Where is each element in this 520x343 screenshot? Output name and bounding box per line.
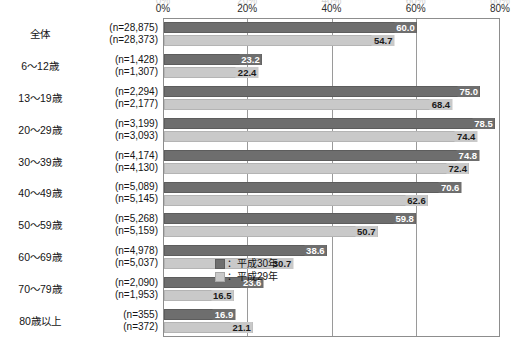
sample-size-group: (n=5,268)(n=5,159)	[80, 213, 163, 237]
bar-y29	[164, 226, 378, 237]
sample-size-label: (n=2,177)	[80, 98, 158, 110]
bar-value-label: 62.6	[405, 195, 428, 206]
bar-y30	[164, 118, 495, 129]
bar-value-label: 54.7	[372, 35, 395, 46]
legend-label: ：平成30年	[227, 257, 278, 270]
category-row: 80歳以上(n=355)(n=372)	[0, 305, 163, 337]
sample-size-label: (n=1,307)	[80, 66, 158, 78]
x-axis-tick-0: 0%	[156, 3, 170, 14]
category-row: 40～49歳(n=5,089)(n=5,145)	[0, 178, 163, 210]
category-label: 20～29歳	[0, 124, 80, 136]
sample-size-label: (n=2,294)	[80, 86, 158, 98]
sample-size-group: (n=28,875)(n=28,373)	[80, 22, 163, 46]
sample-size-label: (n=5,159)	[80, 225, 158, 237]
bar-value-label: 23.2	[239, 54, 262, 65]
plot-area: 60.054.723.222.475.068.478.574.474.872.4…	[163, 18, 500, 337]
bar-group: 60.054.7	[164, 22, 499, 51]
category-label: 70～79歳	[0, 283, 80, 295]
sample-size-group: (n=4,174)(n=4,130)	[80, 150, 163, 174]
sample-size-label: (n=4,174)	[80, 150, 158, 162]
category-row: 13～19歳(n=2,294)(n=2,177)	[0, 82, 163, 114]
sample-size-label: (n=4,130)	[80, 162, 158, 174]
bar-value-label: 50.7	[355, 226, 378, 237]
bar-value-label: 72.4	[446, 163, 469, 174]
legend-item: ：平成29年	[215, 270, 278, 283]
bar-group: 59.850.7	[164, 213, 499, 242]
bar-y30	[164, 22, 417, 33]
category-label: 13～19歳	[0, 92, 80, 104]
bar-y29	[164, 195, 428, 206]
sample-size-group: (n=2,294)(n=2,177)	[80, 86, 163, 110]
category-label: 40～49歳	[0, 187, 80, 199]
sample-size-label: (n=2,090)	[80, 277, 158, 289]
sample-size-group: (n=355)(n=372)	[80, 309, 163, 333]
sample-size-label: (n=28,373)	[80, 34, 158, 46]
bar-group: 16.921.1	[164, 309, 499, 338]
bar-y30	[164, 213, 416, 224]
bar-value-label: 74.8	[457, 150, 480, 161]
bar-y29	[164, 99, 452, 110]
x-axis-tick-80: 80%	[490, 3, 510, 14]
category-label: 全体	[0, 28, 80, 40]
sample-size-label: (n=3,199)	[80, 118, 158, 130]
sample-size-label: (n=3,093)	[80, 130, 158, 142]
bar-value-label: 16.9	[213, 309, 236, 320]
x-axis-tick-labels: 0%0%20%20%40%40%60%60%80%80%	[0, 0, 520, 18]
legend-swatch-y29	[215, 272, 225, 282]
bar-y30	[164, 182, 461, 193]
legend-swatch-y30	[215, 259, 225, 269]
category-label: 60～69歳	[0, 251, 80, 263]
category-row: 全体(n=28,875)(n=28,373)	[0, 18, 163, 50]
bar-value-label: 68.4	[430, 99, 453, 110]
category-label: 6～12歳	[0, 60, 80, 72]
category-label: 80歳以上	[0, 315, 80, 327]
category-row: 70～79歳(n=2,090)(n=1,953)	[0, 273, 163, 305]
sample-size-label: (n=28,875)	[80, 22, 158, 34]
category-row: 50～59歳(n=5,268)(n=5,159)	[0, 209, 163, 241]
bar-y30	[164, 150, 479, 161]
bar-value-label: 60.0	[394, 22, 417, 33]
bar-value-label: 75.0	[457, 86, 480, 97]
sample-size-group: (n=4,978)(n=5,037)	[80, 245, 163, 269]
horizontal-bar-chart: 0%0%20%20%40%40%60%60%80%80% 60.054.723.…	[0, 0, 520, 343]
bar-group: 23.222.4	[164, 54, 499, 83]
bar-group: 70.662.6	[164, 182, 499, 211]
sample-size-group: (n=2,090)(n=1,953)	[80, 277, 163, 301]
bar-y29	[164, 163, 469, 174]
chart-legend: ：平成30年：平成29年	[215, 257, 278, 283]
sample-size-label: (n=4,978)	[80, 245, 158, 257]
sample-size-group: (n=1,428)(n=1,307)	[80, 54, 163, 78]
bar-group: 75.068.4	[164, 86, 499, 115]
category-label-column: 全体(n=28,875)(n=28,373)6～12歳(n=1,428)(n=1…	[0, 18, 163, 337]
bar-group: 74.872.4	[164, 150, 499, 179]
sample-size-label: (n=5,268)	[80, 213, 158, 225]
bar-y29	[164, 35, 394, 46]
sample-size-label: (n=1,953)	[80, 289, 158, 301]
x-axis-tick-60: 60%	[406, 3, 426, 14]
sample-size-label: (n=5,089)	[80, 181, 158, 193]
sample-size-label: (n=5,145)	[80, 193, 158, 205]
category-row: 20～29歳(n=3,199)(n=3,093)	[0, 114, 163, 146]
sample-size-label: (n=355)	[80, 309, 158, 321]
sample-size-label: (n=5,037)	[80, 257, 158, 269]
bar-value-label: 38.6	[304, 245, 327, 256]
legend-label: ：平成29年	[227, 270, 278, 283]
category-label: 30～39歳	[0, 156, 80, 168]
bar-value-label: 21.1	[230, 322, 253, 333]
bar-value-label: 59.8	[393, 213, 416, 224]
category-label: 50～59歳	[0, 219, 80, 231]
category-row: 60～69歳(n=4,978)(n=5,037)	[0, 241, 163, 273]
sample-size-group: (n=5,089)(n=5,145)	[80, 181, 163, 205]
bar-y29	[164, 131, 477, 142]
bar-value-label: 16.5	[211, 290, 234, 301]
bar-y30	[164, 245, 327, 256]
sample-size-label: (n=372)	[80, 321, 158, 333]
x-axis-tick-20: 20%	[237, 3, 257, 14]
bar-group: 78.574.4	[164, 118, 499, 147]
bar-value-label: 78.5	[472, 118, 495, 129]
bar-y30	[164, 86, 480, 97]
x-axis-tick-40: 40%	[321, 3, 341, 14]
bar-value-label: 22.4	[236, 67, 259, 78]
sample-size-group: (n=3,199)(n=3,093)	[80, 118, 163, 142]
legend-item: ：平成30年	[215, 257, 278, 270]
